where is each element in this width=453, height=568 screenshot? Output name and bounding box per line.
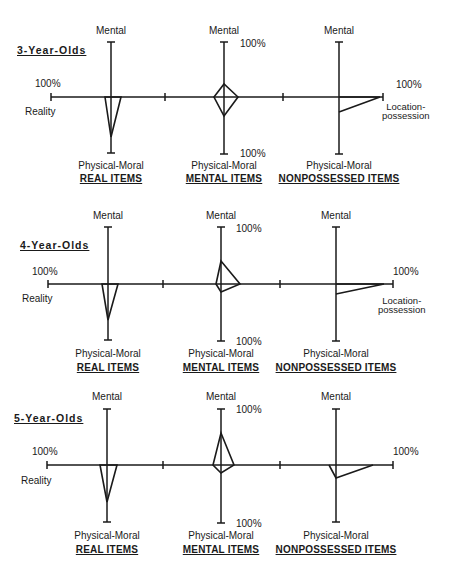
pct-label-right: 100% [393, 446, 419, 457]
axis-label-location-possession: Location- possession [382, 102, 430, 120]
pct-label-right: 100% [396, 79, 422, 90]
item-label-real: REAL ITEMS [80, 173, 142, 184]
diagram-canvas [0, 0, 453, 568]
axis-label-reality: Reality [21, 475, 52, 486]
item-label-real: REAL ITEMS [76, 544, 138, 555]
axis-label-physical-moral: Physical-Moral [188, 530, 254, 541]
axis-label-mental: Mental [206, 391, 236, 402]
axis-label-location-possession: Location- possession [378, 296, 426, 314]
axis-label-physical-moral: Physical-Moral [188, 348, 254, 359]
axis-label-mental: Mental [321, 210, 351, 221]
axis-label-mental: Mental [209, 25, 239, 36]
item-label-mental: MENTAL ITEMS [183, 544, 259, 555]
pct-label-top: 100% [240, 38, 266, 49]
pct-label-bottom: 100% [236, 518, 262, 529]
item-label-mental: MENTAL ITEMS [183, 362, 259, 373]
axis-label-mental: Mental [321, 391, 351, 402]
axis-label-reality: Reality [22, 293, 53, 304]
group-label-3yo: 3-Year-Olds [17, 44, 86, 56]
item-label-nonpossessed: NONPOSSESSED ITEMS [276, 362, 397, 373]
axis-label-location-line2: possession [382, 111, 430, 120]
axis-label-mental: Mental [96, 25, 126, 36]
axis-label-physical-moral: Physical-Moral [303, 348, 369, 359]
axis-label-mental: Mental [92, 391, 122, 402]
item-label-nonpossessed: NONPOSSESSED ITEMS [279, 173, 400, 184]
axis-label-physical-moral: Physical-Moral [303, 530, 369, 541]
pct-label-bottom: 100% [240, 148, 266, 159]
panel-5yo-profiles [100, 433, 373, 502]
group-label-5yo: 5-Year-Olds [14, 412, 83, 424]
profile-4yo-real [102, 284, 118, 320]
pct-label-right: 100% [393, 266, 419, 277]
axis-label-physical-moral: Physical-Moral [75, 348, 141, 359]
pct-label-left: 100% [35, 78, 61, 89]
axis-label-reality: Reality [25, 106, 56, 117]
profile-5yo-mental [213, 433, 234, 473]
profile-4yo-mental [216, 261, 240, 292]
pct-label-bottom: 100% [236, 336, 262, 347]
panel-3yo-axes [51, 42, 383, 154]
pct-label-top: 100% [236, 223, 262, 234]
profile-3yo-nonpossessed [339, 97, 380, 112]
axis-label-mental: Mental [93, 210, 123, 221]
item-label-mental: MENTAL ITEMS [186, 173, 262, 184]
pct-label-left: 100% [32, 266, 58, 277]
profile-4yo-nonpossessed [336, 284, 384, 294]
axis-label-location-line2: possession [378, 305, 426, 314]
axis-label-physical-moral: Physical-Moral [306, 160, 372, 171]
item-label-real: REAL ITEMS [77, 362, 139, 373]
axis-label-physical-moral: Physical-Moral [191, 160, 257, 171]
axis-label-mental: Mental [206, 210, 236, 221]
pct-label-top: 100% [236, 404, 262, 415]
pct-label-left: 100% [32, 446, 58, 457]
axis-label-physical-moral: Physical-Moral [74, 530, 140, 541]
panel-5yo-axes [47, 409, 393, 523]
profile-3yo-mental [214, 84, 238, 116]
group-label-4yo: 4-Year-Olds [20, 239, 89, 251]
axis-label-mental: Mental [324, 25, 354, 36]
profile-3yo-real [105, 97, 121, 137]
axis-label-physical-moral: Physical-Moral [78, 160, 144, 171]
profile-5yo-real [100, 465, 117, 502]
panel-4yo-profiles [102, 261, 384, 320]
item-label-nonpossessed: NONPOSSESSED ITEMS [276, 544, 397, 555]
